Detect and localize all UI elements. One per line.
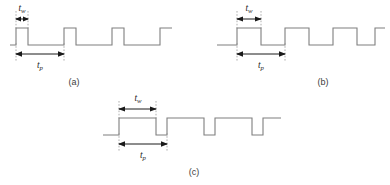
- waveform-a: [10, 28, 172, 45]
- panel-b-svg: tw tp (b): [195, 0, 390, 95]
- panel-c: tw tp (c): [95, 92, 290, 185]
- label-a-pulse-width: tw: [18, 3, 26, 14]
- caption-c: (c): [189, 167, 200, 177]
- label-c-pulse-width: tw: [134, 93, 142, 104]
- caption-a: (a): [69, 77, 80, 87]
- label-b-pulse-width: tw: [245, 3, 253, 14]
- waveform-b: [217, 28, 385, 45]
- label-a-period: tp: [37, 60, 44, 71]
- panel-b: tw tp (b): [195, 0, 390, 95]
- panel-a: tw tp (a): [0, 0, 195, 95]
- label-c-period: tp: [140, 150, 147, 161]
- label-b-period: tp: [258, 60, 265, 71]
- panel-a-svg: tw tp (a): [0, 0, 195, 95]
- caption-b: (b): [318, 77, 329, 87]
- waveform-c: [103, 118, 281, 135]
- panel-c-svg: tw tp (c): [95, 92, 290, 185]
- figure-root: tw tp (a) tw: [0, 0, 390, 185]
